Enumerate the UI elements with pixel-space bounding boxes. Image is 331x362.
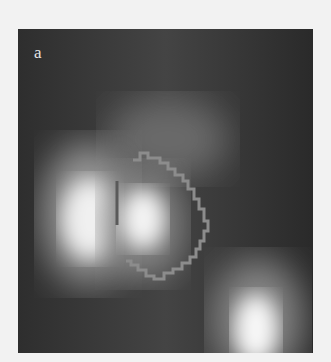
panel-label: a [34, 43, 42, 63]
scan-image-panel: a [18, 29, 313, 353]
scan-image [18, 29, 313, 353]
